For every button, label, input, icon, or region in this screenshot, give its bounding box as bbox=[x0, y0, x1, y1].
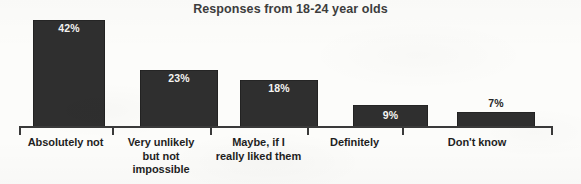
chart-title: Responses from 18-24 year olds bbox=[0, 2, 581, 16]
category-label-dont-know: Don't know bbox=[402, 136, 552, 150]
category-label-definitely: Definitely bbox=[307, 136, 402, 150]
axis-tick-0 bbox=[19, 126, 21, 135]
category-axis-labels: Absolutely not Very unlikely but not imp… bbox=[0, 136, 581, 184]
bar-absolutely-not[interactable] bbox=[33, 20, 105, 128]
bar-value-maybe: 18% bbox=[240, 82, 318, 94]
bar-value-dont-know: 7% bbox=[457, 97, 535, 109]
bar-chart-figure: Responses from 18-24 year olds 42% 23% 1… bbox=[0, 0, 581, 184]
category-label-very-unlikely: Very unlikely but not impossible bbox=[112, 136, 210, 177]
category-label-line: impossible bbox=[112, 163, 210, 177]
axis-tick-2 bbox=[210, 126, 212, 135]
plot-area: 42% 23% 18% 9% 7% bbox=[0, 0, 581, 128]
bar-value-very-unlikely: 23% bbox=[140, 72, 218, 84]
category-label-line: but not bbox=[112, 150, 210, 164]
category-label-line: Very unlikely bbox=[112, 136, 210, 150]
bar-group-definitely: 9% bbox=[353, 0, 428, 128]
category-label-absolutely-not: Absolutely not bbox=[19, 136, 112, 150]
axis-tick-1 bbox=[112, 126, 114, 135]
bar-value-definitely: 9% bbox=[353, 109, 428, 121]
axis-tick-4 bbox=[402, 126, 404, 135]
bar-value-absolutely-not: 42% bbox=[33, 22, 105, 34]
x-axis-line bbox=[19, 126, 552, 128]
category-label-line: Definitely bbox=[307, 136, 402, 150]
category-label-line: really liked them bbox=[210, 150, 307, 164]
category-label-line: Absolutely not bbox=[19, 136, 112, 150]
category-label-line: Don't know bbox=[402, 136, 552, 150]
category-label-line: Maybe, if I bbox=[210, 136, 307, 150]
bar-group-very-unlikely: 23% bbox=[140, 0, 218, 128]
bar-group-maybe: 18% bbox=[240, 0, 318, 128]
bar-group-dont-know: 7% bbox=[457, 0, 535, 128]
bar-group-absolutely-not: 42% bbox=[33, 0, 105, 128]
axis-tick-3 bbox=[307, 126, 309, 135]
category-label-maybe: Maybe, if I really liked them bbox=[210, 136, 307, 163]
axis-tick-5 bbox=[551, 126, 553, 135]
